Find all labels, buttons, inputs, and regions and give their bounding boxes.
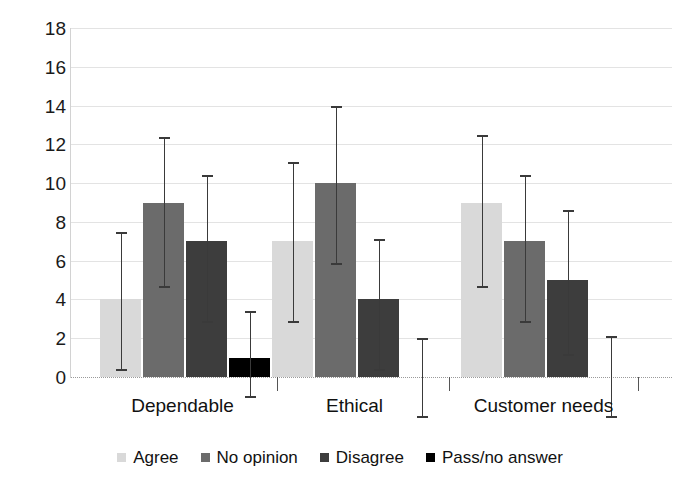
error-bar-whisker xyxy=(293,162,294,321)
legend-item[interactable]: Agree xyxy=(117,449,178,466)
error-bar-cap-lower xyxy=(159,286,170,288)
y-axis-tick-labels: 024681012141618 xyxy=(10,0,66,492)
y-tick-label: 2 xyxy=(20,329,66,348)
error-bar-whisker xyxy=(525,175,526,320)
error-bar-cap-lower xyxy=(202,321,213,323)
error-bar-whisker xyxy=(379,239,380,369)
error-bar-cap-upper xyxy=(606,336,617,338)
bar-chart: 024681012141618 DependableEthicalCustome… xyxy=(0,0,680,492)
x-axis-label: Customer needs xyxy=(474,396,613,415)
gridline xyxy=(71,106,672,107)
error-bar-cap-upper xyxy=(331,106,342,108)
y-tick-label: 16 xyxy=(20,57,66,76)
error-bar-cap-lower xyxy=(116,369,127,371)
gridline xyxy=(71,183,672,184)
y-tick-label: 0 xyxy=(20,368,66,387)
legend-swatch-icon xyxy=(201,453,210,462)
x-axis-tick xyxy=(449,377,450,391)
x-axis-label: Dependable xyxy=(131,396,233,415)
y-tick-label: 4 xyxy=(20,290,66,309)
y-tick-label: 6 xyxy=(20,251,66,270)
gridline xyxy=(71,144,672,145)
error-bar-cap-lower xyxy=(606,416,617,418)
error-bar-whisker xyxy=(422,338,423,416)
error-bar-cap-upper xyxy=(288,162,299,164)
error-bar-whisker xyxy=(121,232,122,370)
chart-legend: AgreeNo opinionDisagreePass/no answer xyxy=(0,449,680,466)
legend-item[interactable]: Pass/no answer xyxy=(426,449,563,466)
legend-item[interactable]: Disagree xyxy=(320,449,404,466)
y-tick-label: 14 xyxy=(20,96,66,115)
y-tick-label: 12 xyxy=(20,135,66,154)
error-bar-whisker xyxy=(336,106,337,263)
error-bar-cap-upper xyxy=(202,175,213,177)
legend-label: No opinion xyxy=(217,449,298,466)
legend-label: Agree xyxy=(133,449,178,466)
error-bar-cap-lower xyxy=(520,321,531,323)
gridline xyxy=(71,28,672,29)
legend-swatch-icon xyxy=(117,453,126,462)
error-bar-cap-upper xyxy=(417,338,428,340)
y-tick-label: 18 xyxy=(20,19,66,38)
legend-label: Disagree xyxy=(336,449,404,466)
x-axis-label: Ethical xyxy=(326,396,383,415)
error-bar-cap-lower xyxy=(563,354,574,356)
legend-swatch-icon xyxy=(320,453,329,462)
error-bar-cap-lower xyxy=(417,416,428,418)
error-bar-cap-lower xyxy=(477,286,488,288)
x-axis-tick xyxy=(277,377,278,391)
error-bar-whisker xyxy=(164,137,165,286)
error-bar-cap-lower xyxy=(288,321,299,323)
error-bar-whisker xyxy=(207,175,208,320)
y-tick-label: 10 xyxy=(20,174,66,193)
plot-area xyxy=(71,28,672,377)
error-bar-whisker xyxy=(482,135,483,286)
zero-baseline xyxy=(71,377,672,378)
error-bar-cap-lower xyxy=(374,369,385,371)
error-bar-cap-lower xyxy=(331,263,342,265)
error-bar-cap-upper xyxy=(563,210,574,212)
gridline xyxy=(71,67,672,68)
error-bar-cap-upper xyxy=(116,232,127,234)
error-bar-cap-upper xyxy=(245,311,256,313)
legend-item[interactable]: No opinion xyxy=(201,449,298,466)
legend-label: Pass/no answer xyxy=(442,449,563,466)
y-tick-label: 8 xyxy=(20,212,66,231)
error-bar-cap-upper xyxy=(520,175,531,177)
error-bar-cap-lower xyxy=(245,396,256,398)
error-bar-cap-upper xyxy=(374,239,385,241)
error-bar-cap-upper xyxy=(159,137,170,139)
error-bar-cap-upper xyxy=(477,135,488,137)
error-bar-whisker xyxy=(568,210,569,353)
error-bar-whisker xyxy=(250,311,251,396)
x-axis-tick xyxy=(638,377,639,391)
legend-swatch-icon xyxy=(426,453,435,462)
